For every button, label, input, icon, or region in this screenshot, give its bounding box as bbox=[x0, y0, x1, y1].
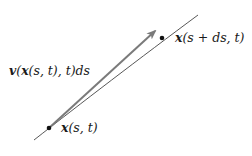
end-point-label: x(s + ds, t) bbox=[175, 32, 244, 45]
velocity-arrow bbox=[49, 31, 155, 128]
diagram-graphics bbox=[0, 0, 252, 156]
start-point-dot bbox=[47, 126, 52, 131]
diagram-canvas: x(s + ds, t) v(x(s, t), t)ds x(s, t) bbox=[0, 0, 252, 156]
end-point-dot bbox=[160, 36, 165, 41]
start-point-label: x(s, t) bbox=[61, 122, 98, 135]
vector-label: v(x(s, t), t)ds bbox=[9, 65, 90, 78]
